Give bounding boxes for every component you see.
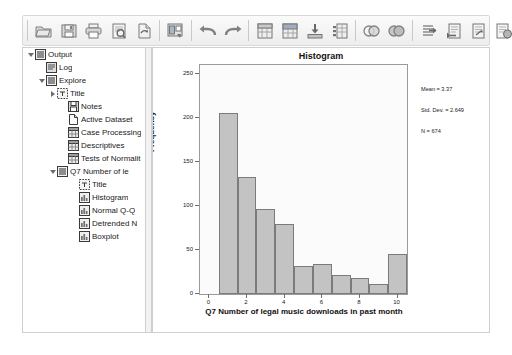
twisty-placeholder <box>70 191 79 204</box>
y-tick-label: 50 <box>186 246 193 252</box>
x-tick-label: 2 <box>244 299 247 305</box>
histogram-bar <box>219 113 238 294</box>
tree-item-tests-of-normalit[interactable]: Tests of Normalit <box>23 152 145 165</box>
y-tick-label: 150 <box>183 158 193 164</box>
x-tick-label: 10 <box>393 299 400 305</box>
y-tick-mark <box>195 161 199 162</box>
hide-show-icon[interactable] <box>491 18 512 43</box>
tree-item-normal-q-q[interactable]: Normal Q-Q <box>23 204 145 217</box>
tree-item-label: Q7 Number of le <box>70 165 129 178</box>
histogram-bar <box>388 254 407 294</box>
promote-icon[interactable] <box>441 18 466 43</box>
x-axis-label: Q7 Number of legal music downloads in pa… <box>189 307 419 317</box>
y-tick-label: 250 <box>183 70 193 76</box>
y-axis-label: Frequency <box>152 112 156 152</box>
toolbar-group-dialog <box>162 16 189 45</box>
tree-item-title[interactable]: Title <box>23 87 145 100</box>
title-icon <box>79 179 90 190</box>
chart-icon <box>79 231 90 242</box>
x-tick-label: 8 <box>357 299 360 305</box>
tree-item-output[interactable]: Output <box>23 48 145 61</box>
insert-footnote-icon[interactable] <box>302 18 327 43</box>
tree-item-explore[interactable]: Explore <box>23 74 145 87</box>
tree-item-detrended-n[interactable]: Detrended N <box>23 217 145 230</box>
x-tick-mark <box>284 294 285 298</box>
chevron-down-icon[interactable] <box>48 165 57 178</box>
find-icon[interactable] <box>359 18 384 43</box>
y-tick-mark <box>195 205 199 206</box>
toolbar-separator <box>355 20 356 41</box>
tree-item-case-processing[interactable]: Case Processing <box>23 126 145 139</box>
table-icon <box>68 140 79 151</box>
table-icon <box>68 153 79 164</box>
tree-item-notes[interactable]: Notes <box>23 100 145 113</box>
chart-icon <box>79 192 90 203</box>
tree-item-log[interactable]: Log <box>23 61 145 74</box>
export-icon[interactable] <box>131 18 156 43</box>
demote-icon[interactable] <box>466 18 491 43</box>
histogram-bar <box>351 278 370 294</box>
twisty-placeholder <box>70 217 79 230</box>
stat-stddev: Std. Dev. = 2.649 <box>421 107 464 114</box>
tree-item-label: Title <box>92 178 107 191</box>
navigator-scrollbar[interactable] <box>145 47 152 333</box>
x-tick-label: 0 <box>207 299 210 305</box>
spss-output-window: OutputLogExploreTitleNotesActive Dataset… <box>0 0 512 355</box>
chart-title: Histogram <box>153 51 489 61</box>
output-viewer-pane[interactable]: Histogram Mean = 3.37 Std. Dev. = 2.649 … <box>152 47 490 333</box>
open-file-icon[interactable] <box>31 18 56 43</box>
y-tick-mark <box>195 249 199 250</box>
tree-item-label: Output <box>48 48 72 61</box>
histogram-bar <box>369 284 388 294</box>
y-tick-label: 0 <box>190 290 193 296</box>
histogram-bar <box>294 266 313 294</box>
tree-item-boxplot[interactable]: Boxplot <box>23 230 145 243</box>
tree-item-histogram[interactable]: Histogram <box>23 191 145 204</box>
twisty-placeholder <box>70 178 79 191</box>
tree-item-active-dataset[interactable]: Active Dataset <box>23 113 145 126</box>
twisty-placeholder <box>70 204 79 217</box>
tree-item-label: Active Dataset <box>81 113 133 126</box>
chart-statistics-annotation: Mean = 3.37 Std. Dev. = 2.649 N = 674 <box>421 72 464 149</box>
tree-item-q7-number-of-le[interactable]: Q7 Number of le <box>23 165 145 178</box>
notes-icon <box>68 101 79 112</box>
tree-item-descriptives[interactable]: Descriptives <box>23 139 145 152</box>
output-icon <box>57 166 68 177</box>
x-tick-mark <box>321 294 322 298</box>
chevron-down-icon[interactable] <box>37 74 46 87</box>
dialog-recall-icon[interactable] <box>163 18 188 43</box>
tree-item-label: Histogram <box>92 191 128 204</box>
histogram-bar <box>256 209 275 294</box>
print-preview-icon[interactable] <box>106 18 131 43</box>
find-replace-icon[interactable] <box>384 18 409 43</box>
tree-item-label: Detrended N <box>92 217 137 230</box>
twisty-placeholder <box>59 152 68 165</box>
chart-icon <box>79 205 90 216</box>
goto-variable-icon[interactable] <box>277 18 302 43</box>
undo-icon[interactable] <box>195 18 220 43</box>
variables-icon[interactable] <box>327 18 352 43</box>
output-icon <box>46 75 57 86</box>
toolbar-separator <box>191 20 192 41</box>
tree-item-title[interactable]: Title <box>23 178 145 191</box>
toolbar-separator <box>412 20 413 41</box>
redo-icon[interactable] <box>220 18 245 43</box>
y-tick-mark <box>195 73 199 74</box>
save-icon[interactable] <box>56 18 81 43</box>
toolbar-group-outline <box>415 16 512 45</box>
chevron-down-icon[interactable] <box>26 48 35 61</box>
histogram-bar <box>313 264 332 294</box>
output-navigator-tree[interactable]: OutputLogExploreTitleNotesActive Dataset… <box>22 47 145 333</box>
goto-case-icon[interactable] <box>252 18 277 43</box>
print-icon[interactable] <box>81 18 106 43</box>
tree-item-label: Notes <box>81 100 102 113</box>
x-tick-label: 4 <box>282 299 285 305</box>
toolbar-group-file <box>30 16 157 45</box>
twisty-placeholder <box>59 100 68 113</box>
chevron-right-icon[interactable] <box>48 87 57 100</box>
insert-pagebreak-icon[interactable] <box>416 18 441 43</box>
title-icon <box>57 88 68 99</box>
y-tick-label: 100 <box>183 202 193 208</box>
tree-item-label: Descriptives <box>81 139 125 152</box>
histogram-bar <box>238 177 257 294</box>
